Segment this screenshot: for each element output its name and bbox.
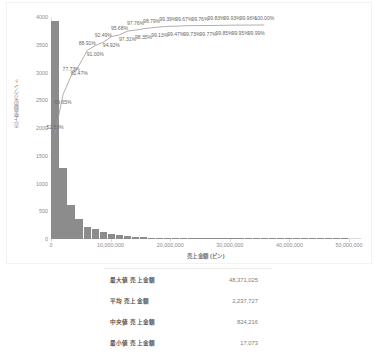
x-axis-tick-label: 0 <box>50 242 53 248</box>
stats-row-value: 48,371,025 <box>200 277 272 283</box>
cumulative-percent-label: 94.92% <box>103 42 120 48</box>
stats-row-value: 824,216 <box>200 319 272 325</box>
table-row: 最小値 売上金額17,073 <box>104 333 272 353</box>
cumulative-percent-label: 91.00% <box>87 51 104 57</box>
cumulative-percent-label: 99.77% <box>199 31 216 37</box>
stats-row-label: 最小値 売上金額 <box>104 339 200 347</box>
y-axis-tick-label: 500 <box>39 208 51 214</box>
x-axis-tick-label: 40,000,000 <box>276 242 303 248</box>
stats-row-value: 17,073 <box>200 340 272 346</box>
y-axis-tick-label: 1000 <box>36 181 51 187</box>
cumulative-percent-label: 99.76% <box>191 16 208 22</box>
histogram-chart-card: 売上金額のカウント 050010001500200025003000350040… <box>6 2 372 264</box>
cumulative-percent-label: 69.65% <box>55 99 72 105</box>
cumulative-percent-label: 99.73% <box>183 31 200 37</box>
x-axis-tick-label: 10,000,000 <box>97 242 124 248</box>
x-axis-tick-label: 30,000,000 <box>216 242 243 248</box>
cumulative-percent-label: 100.00% <box>254 15 274 21</box>
cumulative-percent-label: 82.47% <box>71 70 88 76</box>
stats-row-label: 最大値 売上金額 <box>104 276 200 284</box>
cumulative-percent-label: 99.67% <box>175 16 192 22</box>
cumulative-percent-label: 99.39% <box>159 16 176 22</box>
cumulative-percent-label: 98.35% <box>135 34 152 40</box>
y-axis-title: 売上金額のカウント <box>13 79 25 128</box>
cumulative-percent-label: 99.99% <box>248 30 265 36</box>
cumulative-percent-label: 99.95% <box>232 30 249 36</box>
stats-row-value: 2,237,727 <box>200 298 272 304</box>
table-row: 中央値 売上金額824,216 <box>104 312 272 332</box>
cumulative-percent-label: 98.79% <box>143 18 160 24</box>
x-axis-title: 売上金額 (ビン) <box>51 252 361 260</box>
table-row: 最大値 売上金額48,371,025 <box>104 270 272 290</box>
cumulative-percent-label: 99.93% <box>224 15 241 21</box>
table-row: 平均 売上金額2,237,727 <box>104 291 272 311</box>
y-axis-tick-label: 1500 <box>36 153 51 159</box>
y-axis-tick-label: 3500 <box>36 42 51 48</box>
x-axis-tick-label: 20,000,000 <box>157 242 184 248</box>
y-axis-tick-label: 3000 <box>36 70 51 76</box>
cumulative-percent-label: 52.53% <box>47 124 64 130</box>
stats-row-label: 平均 売上金額 <box>104 297 200 305</box>
summary-stats-table: 最大値 売上金額48,371,025平均 売上金額2,237,727中央値 売上… <box>104 268 272 352</box>
x-axis-tick-label: 50,000,000 <box>336 242 363 248</box>
pareto-chart-page: 売上金額のカウント 050010001500200025003000350040… <box>0 0 376 355</box>
cumulative-percent-label: 95.68% <box>111 25 128 31</box>
stats-divider <box>104 268 272 269</box>
y-axis-tick-label: 2500 <box>36 97 51 103</box>
cumulative-percent-label: 88.91% <box>79 40 96 46</box>
cumulative-percent-label: 99.83% <box>207 15 224 21</box>
cumulative-percent-label: 99.13% <box>151 32 168 38</box>
cumulative-percent-label: 97.76% <box>127 20 144 26</box>
y-axis-tick-label: 4000 <box>36 14 51 20</box>
plot-area: 05001000150020002500300035004000 52.53%6… <box>51 17 361 239</box>
stats-row-label: 中央値 売上金額 <box>104 318 200 326</box>
cumulative-percent-label: 92.49% <box>95 32 112 38</box>
cumulative-percent-label: 99.47% <box>167 31 184 37</box>
cumulative-percent-label: 97.31% <box>119 36 136 42</box>
cumulative-percent-label: 99.85% <box>216 30 233 36</box>
